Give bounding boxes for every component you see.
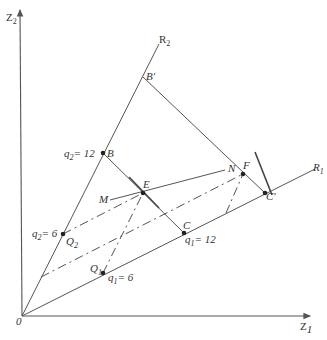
origin-label: 0 xyxy=(16,315,22,327)
label-bprime: B' xyxy=(146,70,156,82)
r2-label: R2 xyxy=(159,33,170,48)
label-m: M xyxy=(98,193,109,205)
tangent-f xyxy=(255,152,272,195)
point-f xyxy=(241,172,246,177)
line-m-n xyxy=(110,170,225,200)
z2-axis xyxy=(20,10,22,316)
dash-r1-f xyxy=(226,174,243,213)
z2-axis-label: Z2 xyxy=(6,11,17,26)
label-b: B xyxy=(107,147,114,159)
ray-r2 xyxy=(22,44,159,316)
annotation-q2-12: q2= 12 xyxy=(64,147,95,162)
label-q2: Q2 xyxy=(66,235,78,250)
diagram-canvas: Z2 Z1 0 R2 R1 B' B E M F N C C' Q2 Q1 q2… xyxy=(0,0,327,340)
annotation-q1-12: q1= 12 xyxy=(185,233,216,248)
label-cprime: C' xyxy=(266,190,276,202)
label-n: N xyxy=(227,162,236,174)
annotation-q2-6: q2= 6 xyxy=(32,227,58,242)
r1-label: R1 xyxy=(312,161,324,176)
label-c: C xyxy=(183,219,191,231)
point-e xyxy=(141,191,146,196)
point-b xyxy=(101,151,106,156)
label-e: E xyxy=(142,178,150,190)
label-q1: Q1 xyxy=(90,262,102,277)
z1-axis-label: Z1 xyxy=(300,320,312,335)
dash-q1-e xyxy=(103,193,143,273)
point-q2 xyxy=(61,232,66,237)
annotation-q1-6: q1= 6 xyxy=(108,271,134,286)
label-f: F xyxy=(242,159,250,171)
